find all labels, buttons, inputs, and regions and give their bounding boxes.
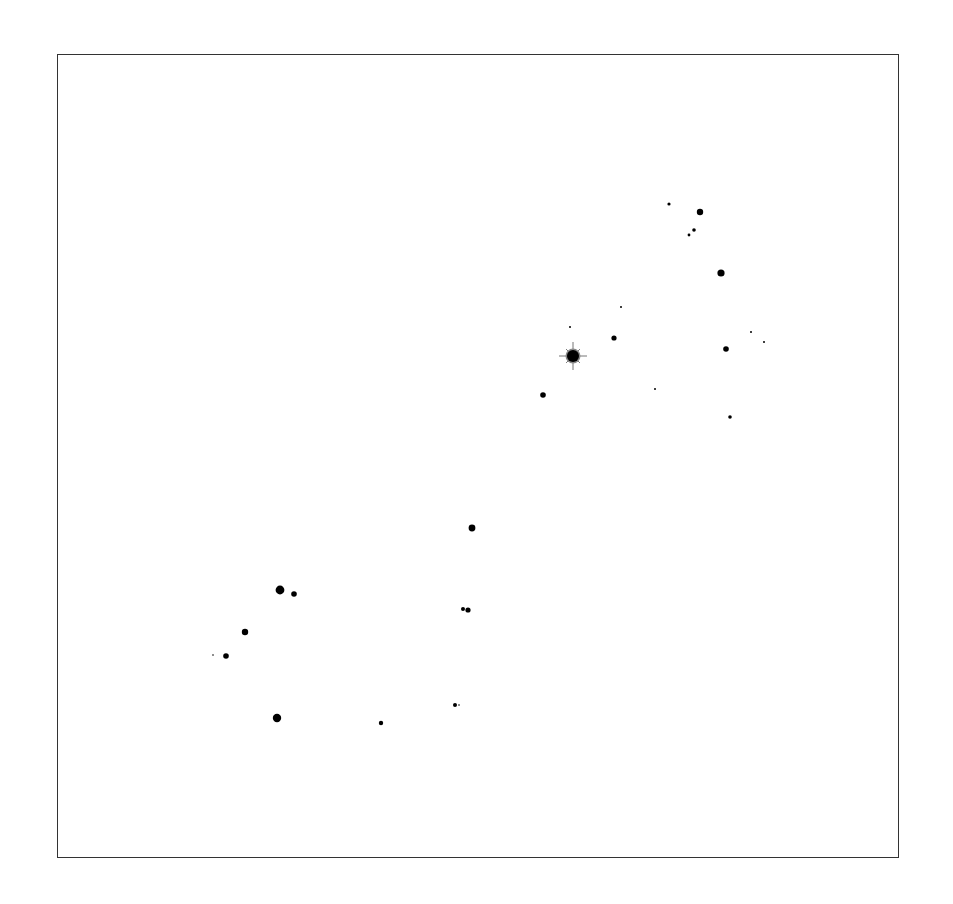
star-6 (620, 306, 622, 308)
star-13 (540, 392, 546, 398)
star-7 (569, 326, 571, 328)
star-15 (469, 525, 476, 532)
star-2 (697, 209, 703, 215)
star-20 (242, 629, 248, 635)
star-18 (461, 607, 465, 611)
star-22 (223, 653, 229, 659)
star-25 (273, 714, 281, 722)
star-23 (453, 703, 457, 707)
star-9 (750, 331, 752, 333)
star-19 (465, 607, 470, 612)
star-10 (763, 341, 765, 343)
star-16 (276, 586, 285, 595)
star-3 (692, 228, 696, 232)
star-8 (611, 335, 616, 340)
star-14 (728, 415, 732, 419)
star-1 (667, 202, 670, 205)
star-field (0, 0, 953, 904)
star-26 (379, 721, 383, 725)
star-4 (688, 234, 691, 237)
bright-star-core (567, 350, 579, 362)
star-12 (654, 388, 656, 390)
star-21 (212, 654, 214, 656)
bright-star-icon (559, 342, 587, 370)
star-5 (717, 269, 724, 276)
stars-group (212, 202, 765, 725)
star-11 (723, 346, 729, 352)
star-24 (458, 704, 460, 706)
star-17 (291, 591, 297, 597)
